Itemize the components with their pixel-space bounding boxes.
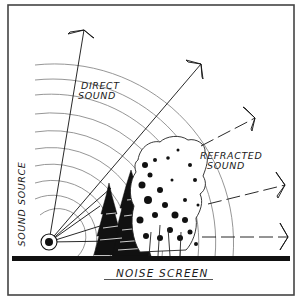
sound-source-label: SOUND SOURCE xyxy=(17,162,27,247)
deciduous-tree xyxy=(130,136,207,256)
ground-line xyxy=(12,256,290,261)
arrowhead-icon xyxy=(186,60,203,79)
arrowhead-icon xyxy=(68,30,94,38)
sound-source-icon xyxy=(41,234,57,250)
noise-screen-label: NOISE SCREEN xyxy=(104,268,213,280)
refracted-sound-label: REFRACTED SOUND xyxy=(200,151,262,171)
direct-sound-label: DIRECT SOUND xyxy=(81,81,120,101)
arrowhead-icon xyxy=(280,223,288,250)
refracted-sound-label-line2: SOUND xyxy=(207,161,262,171)
direct-sound-label-line2: SOUND xyxy=(78,91,120,101)
